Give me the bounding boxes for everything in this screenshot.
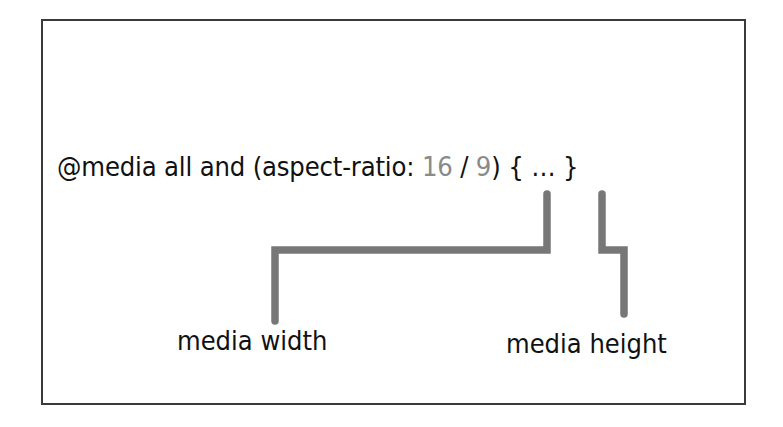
media-width-label: media width [177,324,327,358]
height-connector [602,194,624,314]
connector-lines [0,0,783,427]
width-connector [275,194,547,321]
media-height-label: media height [506,327,667,361]
